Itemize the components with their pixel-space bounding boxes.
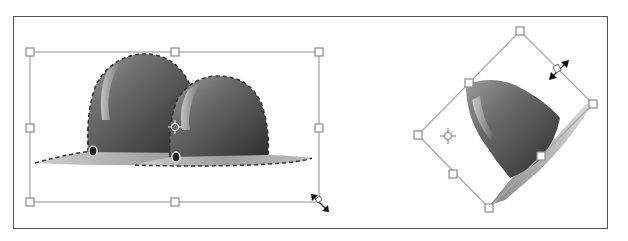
- hat-rotated[interactable]: [466, 80, 590, 205]
- handle-middle-left[interactable]: [26, 124, 34, 132]
- handle-bottom-right-mid[interactable]: [537, 152, 545, 160]
- handle-bottom-left-mid[interactable]: [449, 170, 457, 178]
- handle-bottom-left[interactable]: [26, 198, 34, 206]
- handle-bottom[interactable]: [485, 204, 493, 212]
- handle-middle-right[interactable]: [315, 124, 323, 132]
- left-panel: [26, 48, 329, 212]
- handle-top[interactable]: [516, 27, 524, 35]
- canvas[interactable]: [0, 0, 628, 241]
- handle-right[interactable]: [589, 100, 597, 108]
- handle-top-left-mid[interactable]: [465, 79, 473, 87]
- handle-bottom-center[interactable]: [171, 198, 179, 206]
- handle-top-right[interactable]: [315, 48, 323, 56]
- right-panel: [414, 27, 597, 212]
- resize-diagonal-icon: [311, 194, 329, 212]
- handle-top-center[interactable]: [171, 48, 179, 56]
- handle-top-left[interactable]: [26, 48, 34, 56]
- reference-point-icon[interactable]: [440, 128, 456, 144]
- handle-left[interactable]: [414, 131, 422, 139]
